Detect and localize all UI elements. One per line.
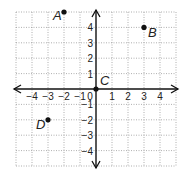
x-tick-label: −2 [58,91,70,102]
point-dot-icon [93,86,98,91]
y-tick-label: 3 [87,38,93,49]
x-tick-label: 3 [141,91,147,102]
x-tick-label: 1 [109,91,115,102]
point-label: A [52,8,62,23]
x-tick-label: −3 [42,91,54,102]
y-tick-label: −2 [82,115,94,126]
point-d: D [36,117,51,132]
point-dot-icon [61,9,66,14]
x-tick-label: 2 [125,91,131,102]
coordinate-plane: −4−3−2−1012344321−1−2−3−4 ABCD [0,0,183,174]
x-tick-label: 4 [157,91,163,102]
x-tick-label: −4 [26,91,38,102]
y-tick-label: 1 [87,69,93,80]
point-dot-icon [141,25,146,30]
point-dot-icon [45,117,50,122]
y-tick-label: −1 [82,99,94,110]
y-tick-label: −4 [82,146,94,157]
y-tick-label: 2 [87,53,93,64]
point-label: C [100,73,110,88]
point-label: B [148,25,157,40]
point-a: A [52,8,67,23]
y-tick-label: 4 [87,22,93,33]
y-tick-label: −3 [82,130,94,141]
point-label: D [36,117,45,132]
